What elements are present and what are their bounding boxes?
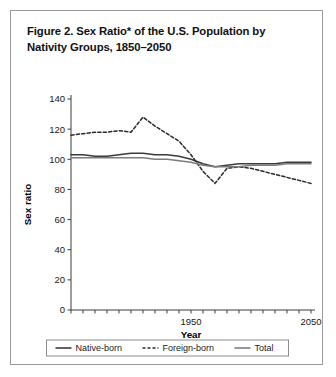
y-axis-title: Sex ratio (22, 184, 33, 225)
sex-ratio-line-chart: Sex ratio Year 020406080100120140 195020… (11, 73, 324, 366)
x-tick-label: 2050 (300, 316, 321, 327)
figure-title: Figure 2. Sex Ratio* of the U.S. Populat… (27, 23, 307, 55)
chart-plot-area: Sex ratio Year 020406080100120140 195020… (11, 73, 324, 366)
y-tick-label: 40 (54, 244, 65, 255)
legend-label-total: Total (255, 343, 274, 353)
legend-label-foreign-born: Foreign-born (163, 343, 215, 353)
y-tick-label: 100 (49, 154, 65, 165)
data-series-group (71, 117, 311, 183)
y-axis: 020406080100120140 (49, 93, 71, 315)
y-tick-label: 60 (54, 214, 65, 225)
chart-legend: Native-bornForeign-bornTotal (11, 336, 324, 366)
x-axis: 19502050 (71, 310, 322, 327)
y-tick-label: 120 (49, 124, 65, 135)
y-tick-label: 140 (49, 93, 65, 104)
y-tick-label: 0 (60, 304, 65, 315)
figure-container: Figure 2. Sex Ratio* of the U.S. Populat… (10, 10, 323, 365)
y-tick-label: 80 (54, 184, 65, 195)
y-tick-label: 20 (54, 274, 65, 285)
series-line-foreign-born (71, 117, 311, 183)
legend-label-native-born: Native-born (76, 343, 123, 353)
x-tick-label: 1950 (180, 316, 201, 327)
